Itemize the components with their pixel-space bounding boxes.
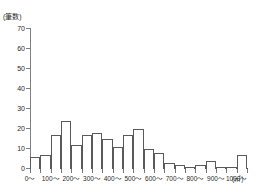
y-axis-tick-label-wrap: 70 — [0, 25, 25, 32]
x-axis-tick-label: 600～ — [145, 175, 163, 183]
x-axis-tick — [144, 169, 145, 173]
y-axis-tick-label-wrap: 50 — [0, 65, 25, 72]
x-axis-tick — [123, 169, 124, 173]
x-axis-tick — [61, 169, 62, 173]
x-axis-tick-label: 400～ — [104, 175, 122, 183]
y-axis-tick-label-wrap: 10 — [0, 145, 25, 152]
histogram-bar — [123, 135, 133, 169]
x-axis-tick — [216, 169, 217, 173]
y-axis-tick-label: 0 — [1, 165, 25, 172]
y-axis-tick-label-wrap: 30 — [0, 105, 25, 112]
x-axis-tick — [113, 169, 114, 173]
y-axis-tick-label: 20 — [1, 125, 25, 132]
x-axis-tick — [247, 169, 248, 173]
x-axis-tick-label: 500～ — [124, 175, 142, 183]
x-axis-tick-label: 200～ — [62, 175, 80, 183]
x-axis-tick — [185, 169, 186, 173]
y-axis-tick-label: 30 — [1, 105, 25, 112]
x-axis-tick — [30, 169, 31, 173]
histogram-bar — [237, 155, 247, 169]
histogram-chart: (筆数) 706050403020100 0～100～200～300～400～5… — [0, 0, 256, 194]
y-axis-tick-label-wrap: 20 — [0, 125, 25, 132]
y-axis-tick-label: 10 — [1, 145, 25, 152]
histogram-bar — [195, 165, 205, 169]
x-axis-tick — [92, 169, 93, 173]
x-axis-tick-label: 800～ — [186, 175, 204, 183]
y-axis-tick-label: 50 — [1, 65, 25, 72]
x-axis-tick — [164, 169, 165, 173]
histogram-bar — [82, 135, 92, 169]
histogram-bar — [154, 153, 164, 169]
bars-layer — [30, 28, 247, 169]
y-axis-tick-label: 40 — [1, 85, 25, 92]
histogram-bar — [61, 121, 71, 169]
histogram-bar — [30, 157, 40, 169]
x-axis-tick — [195, 169, 196, 173]
histogram-bar — [102, 139, 112, 169]
y-axis-tick-label-wrap: 40 — [0, 85, 25, 92]
x-axis-tick — [154, 169, 155, 173]
x-axis-tick — [40, 169, 41, 173]
x-axis-tick — [175, 169, 176, 173]
x-axis-tick — [237, 169, 238, 173]
x-axis-tick — [133, 169, 134, 173]
x-axis-tick — [82, 169, 83, 173]
y-axis-tick-label: 70 — [1, 25, 25, 32]
histogram-bar — [206, 161, 216, 169]
y-axis-tick-label-wrap: 60 — [0, 45, 25, 52]
x-axis-tick-label: 0～ — [25, 175, 36, 183]
histogram-bar — [216, 167, 226, 169]
histogram-bar — [71, 145, 81, 169]
histogram-bar — [92, 133, 102, 169]
y-axis-tick-label-wrap: 0 — [0, 165, 25, 172]
histogram-bar — [164, 163, 174, 169]
x-axis-tick — [71, 169, 72, 173]
y-axis-unit-label: (筆数) — [3, 12, 22, 21]
histogram-bar — [113, 147, 123, 169]
histogram-bar — [144, 149, 154, 169]
x-axis-unit-label: (㎡) — [232, 175, 243, 183]
x-axis-tick — [102, 169, 103, 173]
y-axis-tick-label: 60 — [1, 45, 25, 52]
x-axis-tick-label: 100～ — [42, 175, 60, 183]
histogram-bar — [40, 155, 50, 169]
x-axis-tick-label: 300～ — [83, 175, 101, 183]
x-axis-tick — [206, 169, 207, 173]
histogram-bar — [51, 135, 61, 169]
x-axis-tick — [51, 169, 52, 173]
histogram-bar — [185, 167, 195, 169]
histogram-bar — [226, 167, 236, 169]
histogram-bar — [175, 165, 185, 169]
x-axis-tick-label: 900～ — [207, 175, 225, 183]
histogram-bar — [133, 129, 143, 169]
x-axis-tick-label: 700～ — [166, 175, 184, 183]
x-axis-tick — [226, 169, 227, 173]
